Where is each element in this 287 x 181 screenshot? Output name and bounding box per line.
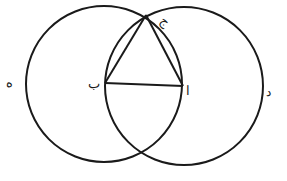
label-ba: ب: [88, 76, 100, 91]
equilateral-triangle-diagram: ه ب ا ج د: [0, 0, 287, 181]
segment-ba-alif: [105, 83, 183, 86]
circle-centered-ba: [26, 6, 182, 162]
segment-ba-jim: [105, 15, 146, 83]
label-heh: ه: [6, 75, 13, 90]
label-alif: ا: [186, 83, 190, 98]
circle-centered-alif: [105, 7, 263, 165]
label-dal: د: [266, 85, 271, 99]
